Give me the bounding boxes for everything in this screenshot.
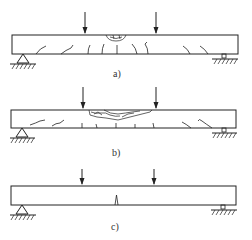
- pin-support-left: [10, 128, 35, 143]
- load-arrow-right: [154, 12, 159, 34]
- beam: [11, 110, 236, 128]
- flexural-cracks: [30, 120, 212, 129]
- flexural-cracks: [36, 42, 208, 54]
- beam-diagram: [0, 0, 252, 240]
- panel-a: [10, 12, 238, 69]
- beam: [12, 35, 238, 54]
- roller-support-right: [211, 205, 237, 215]
- load-arrow-left: [80, 169, 85, 185]
- load-arrow-right: [152, 169, 157, 185]
- beam: [11, 186, 236, 205]
- panel-label-b: b): [112, 147, 120, 158]
- load-arrow-left: [81, 87, 86, 109]
- crushing-zone: [106, 35, 126, 41]
- panel-c: [10, 169, 237, 220]
- crushing-zone: [89, 110, 152, 120]
- pin-support-left: [10, 54, 36, 69]
- panel-label-c: c): [111, 221, 119, 232]
- load-arrow-right: [154, 87, 159, 109]
- panel-b: [10, 87, 237, 143]
- roller-support-right: [212, 128, 237, 138]
- flexural-crack-midspan: [115, 195, 118, 205]
- panel-label-a: a): [113, 68, 121, 79]
- load-arrow-left: [83, 12, 88, 34]
- roller-support-right: [212, 54, 238, 64]
- pin-support-left: [10, 205, 36, 220]
